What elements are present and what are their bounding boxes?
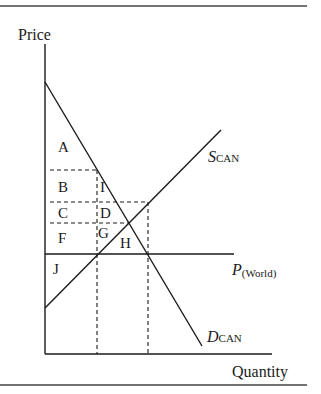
region-f: F — [58, 230, 66, 246]
dashed-guides — [50, 170, 148, 354]
demand-label: DCAN — [206, 328, 242, 345]
x-axis-label: Quantity — [232, 363, 288, 381]
demand-curve — [45, 82, 202, 346]
tariff-diagram: Price Quantity SCAN DCAN P(World) A B I … — [0, 0, 321, 394]
supply-label: SCAN — [208, 148, 239, 165]
region-g: G — [98, 225, 109, 241]
y-axis-label: Price — [18, 26, 51, 43]
region-j: J — [53, 261, 59, 277]
region-i: I — [100, 179, 105, 195]
supply-curve — [45, 130, 221, 308]
region-d: D — [100, 205, 111, 221]
region-c: C — [58, 205, 68, 221]
world-price-label: P(World) — [231, 261, 277, 280]
region-h: H — [120, 235, 131, 251]
region-a: A — [58, 139, 69, 155]
region-b: B — [58, 179, 68, 195]
